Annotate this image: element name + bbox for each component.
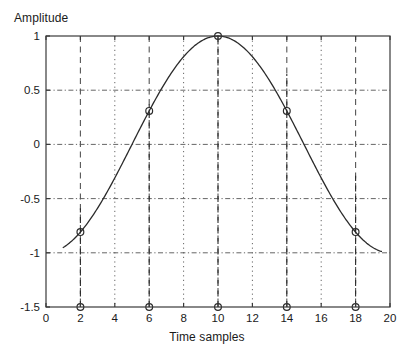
x-tick-label: 2: [77, 312, 83, 324]
y-tick-label: -1: [30, 247, 40, 259]
grid-lines: [46, 36, 390, 307]
x-tick-label: 14: [280, 312, 293, 324]
x-tick-label: 16: [315, 312, 328, 324]
data-curve: [63, 36, 381, 251]
y-tick-label: -1.5: [20, 301, 40, 313]
x-tick-label: 10: [212, 312, 225, 324]
x-tick-label: 6: [146, 312, 152, 324]
tick-marks: [46, 36, 390, 307]
x-tick-label: 4: [112, 312, 118, 324]
plot-area: [0, 0, 414, 355]
stem-lines: [80, 36, 355, 307]
x-tick-label: 12: [246, 312, 259, 324]
chart-figure: Amplitude Time samples 10.50-0.5-1-1.502…: [0, 0, 414, 355]
y-tick-label: 1: [34, 30, 40, 42]
x-tick-label: 20: [384, 312, 397, 324]
x-tick-label: 18: [349, 312, 362, 324]
x-tick-label: 8: [180, 312, 186, 324]
axes-frame: [46, 36, 390, 307]
x-tick-label: 0: [43, 312, 49, 324]
x-axis-label: Time samples: [0, 330, 414, 344]
y-axis-label: Amplitude: [14, 11, 68, 25]
y-tick-label: 0.5: [24, 84, 40, 96]
y-tick-label: -0.5: [20, 193, 40, 205]
y-tick-label: 0: [34, 138, 40, 150]
